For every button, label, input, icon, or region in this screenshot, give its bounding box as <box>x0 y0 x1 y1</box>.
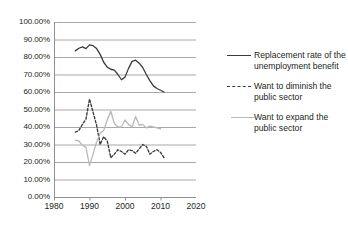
y-axis-tick-label: 10.00% <box>0 176 50 184</box>
legend-label: Replacement rate of the unemployment ben… <box>254 50 348 73</box>
y-axis-tick-label: 100.00% <box>0 18 50 26</box>
plot-svg <box>54 22 196 201</box>
x-axis-tick-label: 2020 <box>176 201 216 212</box>
x-axis-tick-label: 2010 <box>141 201 181 212</box>
y-axis-tick-label: 50.00% <box>0 106 50 114</box>
y-axis-tick-labels: 100.00%90.00%80.00%70.00%60.00%50.00%40.… <box>0 22 50 197</box>
solid-dark-line-icon <box>227 55 251 59</box>
chart-legend: Replacement rate of the unemployment ben… <box>227 50 348 142</box>
legend-label: Want to expand the public sector <box>254 112 348 135</box>
series-line-3 <box>75 111 160 165</box>
y-axis-tick-label: 30.00% <box>0 141 50 149</box>
x-axis-tick-label: 1980 <box>34 201 74 212</box>
y-axis-tick-label: 40.00% <box>0 123 50 131</box>
x-axis-tick-label: 2000 <box>105 201 145 212</box>
legend-label: Want to diminish the public sector <box>254 81 348 104</box>
dashed-dark-line-icon <box>227 86 251 90</box>
x-axis-tick-label: 1990 <box>70 201 110 212</box>
series-line-2 <box>75 99 164 158</box>
line-chart-figure: 100.00%90.00%80.00%70.00%60.00%50.00%40.… <box>0 0 348 234</box>
legend-entry-want-to-expand: Want to expand the public sector <box>227 112 348 135</box>
series-line-1 <box>75 45 164 92</box>
y-axis-tick-label: 0.00% <box>0 193 50 201</box>
gridlines <box>54 23 196 181</box>
x-axis-tick-labels: 19801990200020102020 <box>54 201 196 215</box>
legend-entry-replacement-rate: Replacement rate of the unemployment ben… <box>227 50 348 73</box>
plot-area <box>54 22 196 197</box>
solid-light-line-icon <box>231 117 255 121</box>
legend-entry-want-to-diminish: Want to diminish the public sector <box>227 81 348 104</box>
y-axis-tick-label: 80.00% <box>0 53 50 61</box>
y-axis-tick-label: 90.00% <box>0 36 50 44</box>
y-axis-tick-label: 20.00% <box>0 158 50 166</box>
data-series-lines <box>75 45 164 166</box>
y-axis-tick-label: 60.00% <box>0 88 50 96</box>
y-axis-tick-label: 70.00% <box>0 71 50 79</box>
